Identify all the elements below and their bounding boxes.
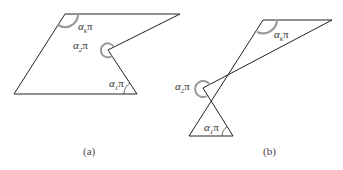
angle-arc-alpha-2-b: [195, 81, 210, 97]
angle-arc-alpha-1-a: [124, 83, 130, 94]
label-alpha-2-a: α2π: [73, 40, 88, 54]
angle-arc-alpha-1-b: [222, 127, 227, 136]
label-alpha-k-a: αkπ: [78, 21, 92, 35]
polygon-diagrams: [0, 0, 343, 170]
caption-a: (a): [83, 146, 95, 157]
caption-b: (b): [263, 146, 276, 157]
polygon-a: [14, 14, 180, 94]
label-alpha-k-b: αkπ: [274, 29, 288, 43]
label-alpha-1-a: α1π: [109, 78, 124, 92]
label-alpha-1-b: α1π: [204, 122, 219, 136]
label-alpha-2-b: α2π: [175, 81, 190, 95]
polygon-b: [189, 20, 332, 136]
